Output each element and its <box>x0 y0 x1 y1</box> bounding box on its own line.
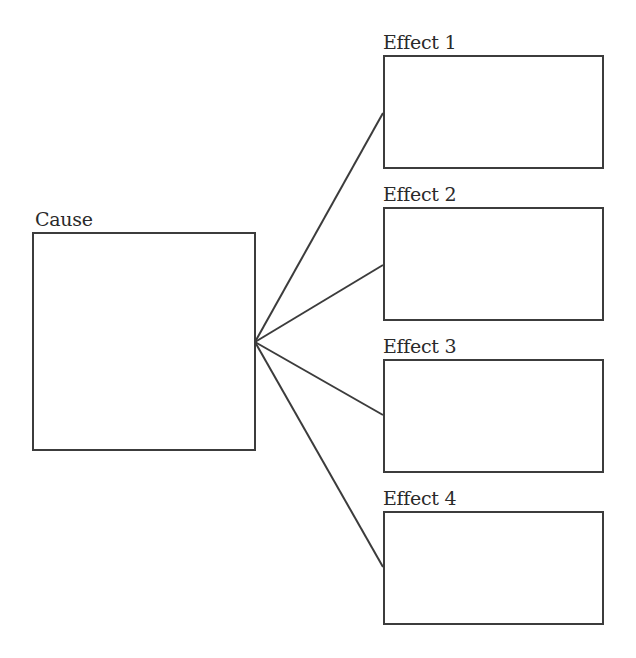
connector-cause-effect-1 <box>255 113 383 342</box>
connector-cause-effect-2 <box>255 265 383 342</box>
effect-2-box <box>383 207 604 321</box>
effect-4-label: Effect 4 <box>383 489 456 508</box>
effect-1-label: Effect 1 <box>383 33 456 52</box>
effect-2-label: Effect 2 <box>383 185 456 204</box>
effect-3-label: Effect 3 <box>383 337 456 356</box>
effect-1-box <box>383 55 604 169</box>
cause-label: Cause <box>35 210 93 229</box>
connector-cause-effect-4 <box>255 342 383 567</box>
connector-cause-effect-3 <box>255 342 383 415</box>
effect-4-box <box>383 511 604 625</box>
cause-box <box>32 232 256 451</box>
effect-3-box <box>383 359 604 473</box>
